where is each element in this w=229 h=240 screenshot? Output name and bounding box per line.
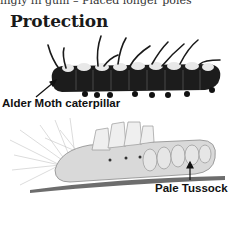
alder-moth-label: Alder Moth caterpillar [2,97,120,109]
pale-tussock-label: Pale Tussock [155,182,228,194]
alder-moth-caterpillar-image [36,36,220,98]
